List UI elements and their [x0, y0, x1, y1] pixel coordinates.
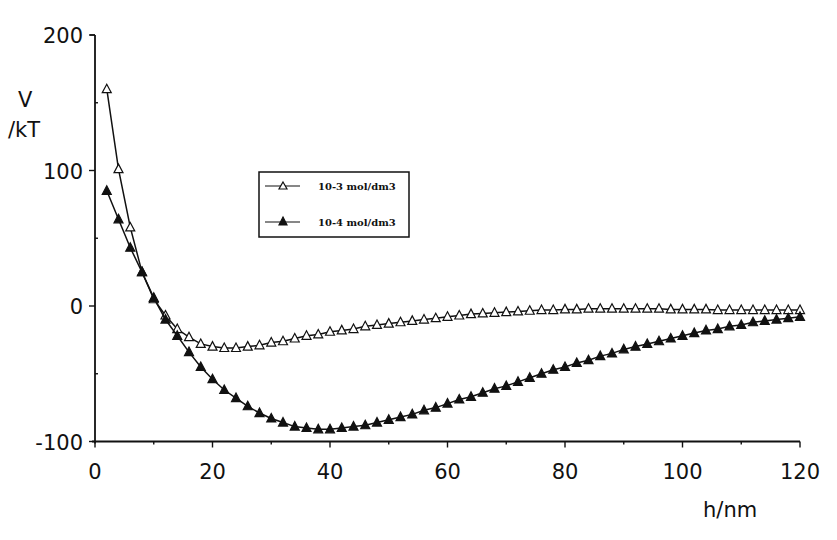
filled-triangle-marker [126, 243, 135, 252]
legend-label: 10-3 mol/dm3 [318, 181, 396, 192]
open-triangle-marker [537, 305, 546, 314]
y-axis-label-unit: /kT [8, 118, 40, 142]
open-triangle-marker [760, 305, 769, 314]
open-triangle-marker [749, 305, 758, 314]
open-triangle-marker [678, 304, 687, 313]
legend: 10-3 mol/dm3 10-4 mol/dm3 [259, 172, 409, 237]
open-triangle-marker [702, 304, 711, 313]
open-triangle-marker [690, 304, 699, 313]
filled-triangle-marker [232, 393, 241, 402]
x-tick-label: 60 [434, 460, 461, 484]
y-tick-label: 200 [43, 24, 83, 48]
y-tick-label: 0 [70, 295, 83, 319]
x-axis-label: h/nm [703, 498, 757, 522]
open-triangle-marker [185, 332, 194, 341]
x-tick-label: 20 [199, 460, 226, 484]
open-triangle-marker [725, 305, 734, 314]
y-tick-label: 100 [43, 160, 83, 184]
open-triangle-marker [561, 304, 570, 313]
open-triangle-marker [126, 222, 135, 231]
filled-triangle-marker [149, 293, 158, 302]
axis-ticks: -1000100200020406080100120 [35, 24, 820, 484]
open-triangle-marker [196, 339, 205, 348]
open-triangle-marker [114, 164, 123, 173]
x-tick-label: 100 [662, 460, 702, 484]
chart: -1000100200020406080100120 V /kT h/nm 10… [0, 0, 837, 540]
filled-triangle-marker [138, 267, 147, 276]
series-10-3-mol-dm3 [102, 84, 804, 351]
x-tick-label: 0 [88, 460, 101, 484]
legend-label: 10-4 mol/dm3 [318, 217, 396, 228]
open-triangle-marker [102, 84, 111, 93]
data-series [102, 84, 804, 433]
x-tick-label: 40 [317, 460, 344, 484]
filled-triangle-marker [102, 186, 111, 195]
filled-triangle-marker [114, 214, 123, 223]
open-triangle-marker [772, 305, 781, 314]
open-triangle-marker [737, 305, 746, 314]
x-tick-label: 80 [552, 460, 579, 484]
y-axis-label-v: V [18, 88, 33, 112]
y-tick-label: -100 [35, 431, 83, 455]
x-tick-label: 120 [780, 460, 820, 484]
filled-triangle-marker [243, 401, 252, 410]
filled-triangle-marker [255, 408, 264, 417]
axes [90, 35, 800, 444]
